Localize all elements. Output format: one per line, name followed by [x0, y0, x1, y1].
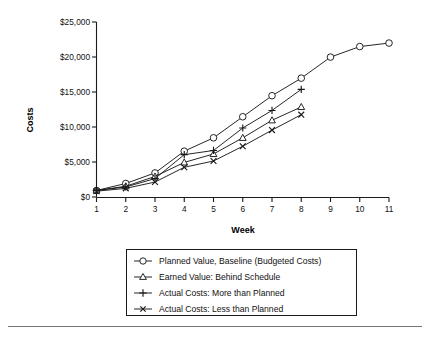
x-tick-label: 4 [182, 204, 187, 214]
x-tick-label: 2 [123, 204, 128, 214]
circle-marker-icon [386, 40, 393, 47]
x-tick-label: 10 [355, 204, 365, 214]
circle-marker-icon [210, 135, 217, 142]
x-tick-label: 3 [153, 204, 158, 214]
legend-label: Planned Value, Baseline (Budgeted Costs) [159, 256, 321, 266]
y-tick-label: $20,000 [60, 52, 90, 62]
chart-legend: Planned Value, Baseline (Budgeted Costs)… [127, 250, 357, 316]
x-tick-label: 1 [94, 204, 99, 214]
circle-marker-icon [140, 258, 146, 264]
circle-marker-icon [269, 92, 276, 99]
x-tick-label: 6 [240, 204, 245, 214]
circle-marker-icon [327, 54, 334, 61]
x-tick-label: 5 [211, 204, 216, 214]
circle-marker-icon [298, 75, 305, 82]
y-tick-label: $0 [81, 192, 91, 202]
y-axis-title: Costs [25, 107, 35, 132]
legend-label: Actual Costs: More than Planned [159, 288, 285, 298]
y-tick-label: $5,000 [65, 157, 91, 167]
legend-entry-planned-value[interactable]: Planned Value, Baseline (Budgeted Costs) [134, 256, 321, 266]
x-tick-label: 8 [299, 204, 304, 214]
x-tick-label: 7 [270, 204, 275, 214]
legend-label: Actual Costs: Less than Planned [159, 304, 283, 314]
chart-figure: Costs $25,000 $20,000 $15,000 $10,000 $5… [0, 0, 430, 337]
y-tick-label: $25,000 [60, 17, 90, 27]
y-tick-label: $10,000 [60, 122, 90, 132]
y-axis-title-text: Costs [25, 107, 35, 132]
x-tick-label: 9 [328, 204, 333, 214]
x-axis-title: Week [231, 225, 255, 235]
x-tick-label: 11 [385, 204, 394, 214]
legend-label: Earned Value: Behind Schedule [159, 272, 280, 282]
circle-marker-icon [356, 43, 363, 50]
circle-marker-icon [239, 113, 246, 120]
earned-value-chart-svg: Costs $25,000 $20,000 $15,000 $10,000 $5… [0, 0, 430, 337]
y-tick-label: $15,000 [60, 87, 90, 97]
